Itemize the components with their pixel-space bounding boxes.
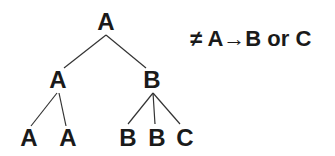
arrow-right-icon: → [223,26,245,51]
node-leaf: C [176,126,193,150]
rule-text: ≠ A→B or C [190,28,311,50]
node-mid-right: B [143,68,160,92]
node-leaf: A [20,126,37,150]
not-equal-icon: ≠ [190,26,202,51]
edge-mid-right-to-leaf5 [153,93,180,124]
node-leaf: B [148,126,165,150]
node-root: A [97,10,114,34]
tree-diagram: A A B A A B B C ≠ A→B or C [0,0,335,156]
rule-lhs: A [207,26,223,51]
node-mid-left: A [49,68,66,92]
node-leaf: B [119,126,136,150]
edge-mid-right-to-leaf3 [128,93,153,124]
edge-mid-left-to-leaf1 [31,93,57,126]
node-leaf: A [59,126,76,150]
edge-root-to-mid-right [106,35,146,68]
edge-mid-right-to-leaf4 [153,93,155,124]
edge-root-to-mid-left [64,35,106,68]
rule-rhs: B or C [245,26,311,51]
edge-mid-left-to-leaf2 [59,93,66,126]
